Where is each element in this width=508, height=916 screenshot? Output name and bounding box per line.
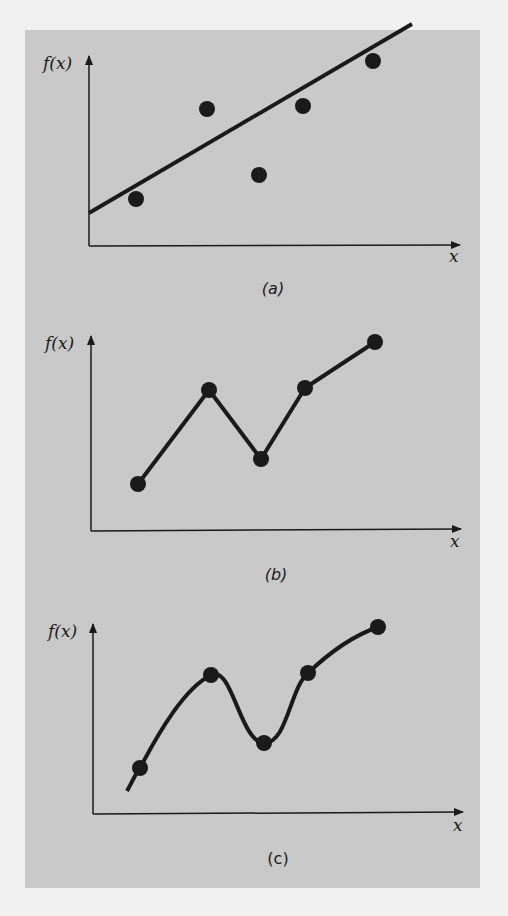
data-point bbox=[297, 380, 313, 396]
y-axis-label: f(x) bbox=[43, 333, 74, 353]
data-point bbox=[365, 53, 381, 69]
y-axis-label: f(x) bbox=[41, 53, 72, 73]
data-point bbox=[251, 167, 267, 183]
data-point bbox=[132, 760, 148, 776]
panel-caption: (c) bbox=[267, 849, 288, 868]
figure-page: f(x) x (a) f(x) x bbox=[0, 0, 508, 916]
data-point bbox=[256, 735, 272, 751]
data-point bbox=[199, 101, 215, 117]
curvilinear-interpolation-curve bbox=[127, 627, 378, 791]
x-axis bbox=[91, 529, 461, 531]
data-points bbox=[130, 334, 383, 492]
data-point bbox=[370, 619, 386, 635]
panel-b: f(x) x (b) bbox=[43, 333, 461, 584]
x-axis bbox=[89, 245, 460, 246]
data-point bbox=[295, 98, 311, 114]
x-axis-label: x bbox=[453, 815, 463, 835]
data-point bbox=[201, 382, 217, 398]
data-point bbox=[253, 451, 269, 467]
data-point bbox=[300, 665, 316, 681]
data-points bbox=[128, 53, 381, 207]
x-axis-label: x bbox=[449, 246, 459, 266]
x-axis-label: x bbox=[450, 531, 460, 551]
data-point bbox=[128, 191, 144, 207]
data-point bbox=[203, 667, 219, 683]
panel-a: f(x) x (a) bbox=[41, 24, 460, 298]
panel-caption: (a) bbox=[262, 279, 284, 298]
panel-c: f(x) x (c) bbox=[46, 619, 463, 868]
data-point bbox=[367, 334, 383, 350]
panel-caption: (b) bbox=[265, 565, 288, 584]
data-point bbox=[130, 476, 146, 492]
y-axis-label: f(x) bbox=[46, 621, 77, 641]
x-axis bbox=[93, 812, 463, 814]
figure-svg: f(x) x (a) f(x) x bbox=[0, 0, 508, 916]
regression-line bbox=[89, 24, 412, 213]
